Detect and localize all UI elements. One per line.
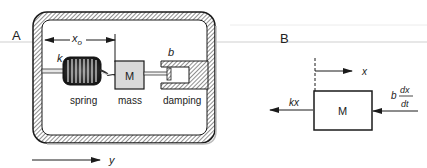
spring-rod-left (42, 69, 64, 73)
spring-caption: spring (70, 95, 97, 106)
y-axis-label: y (108, 154, 116, 166)
svg-text:dx: dx (400, 85, 410, 95)
x-direction-label: x (361, 66, 368, 77)
damping-caption: damping (163, 95, 201, 106)
mass-caption: mass (118, 95, 142, 106)
free-body-mass: M (314, 91, 372, 130)
spring-force-label: kx (289, 97, 300, 108)
panel-b: B x M kx b dx dt (270, 31, 418, 130)
mass-spring-damper-diagram: A xo k (0, 0, 427, 168)
panel-b-label: B (280, 31, 289, 46)
damping-force-label: b dx dt (391, 85, 413, 109)
damping-constant-label: b (168, 46, 174, 58)
piston-rod (144, 72, 168, 75)
svg-text:dt: dt (401, 99, 409, 109)
panel-a: A xo k (12, 12, 216, 166)
spring-constant-label: k (57, 52, 63, 64)
svg-text:M: M (125, 70, 134, 82)
svg-text:M: M (338, 105, 347, 117)
mass-block: M (115, 61, 144, 89)
panel-a-label: A (12, 28, 21, 43)
svg-text:b: b (391, 90, 397, 101)
